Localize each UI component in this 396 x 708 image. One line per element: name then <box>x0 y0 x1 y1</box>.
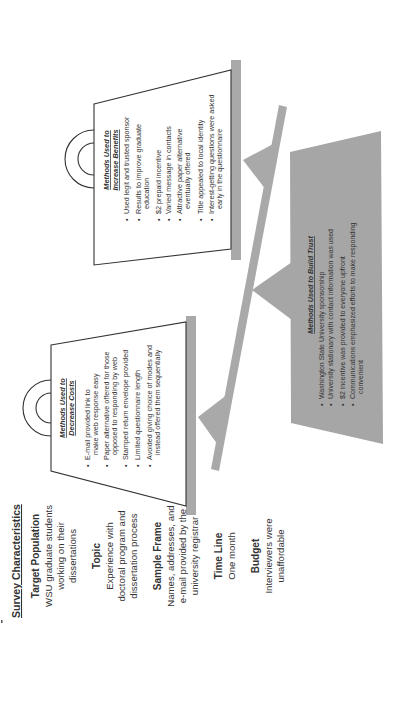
increase-benefits-platform <box>231 60 241 260</box>
topic-heading: Topic <box>91 543 102 569</box>
increase-benefits-title: Methods Used to <box>102 130 111 190</box>
sample-frame-line: e-mail provided by the <box>177 509 188 603</box>
decrease-costs-title: Decrease Costs <box>67 380 76 435</box>
build-trust-box <box>290 131 383 444</box>
increase-benefits-item: eventually offered <box>183 152 192 209</box>
build-trust-title: Methods Used to Build Trust <box>306 236 315 334</box>
increase-benefits-item: early in the questionnaire <box>215 129 224 209</box>
build-trust-item: University stationary with contact infor… <box>327 229 335 399</box>
increase-benefits-item: Title appealed to local identity <box>196 119 205 214</box>
increase-benefits-bag-handle <box>65 130 94 188</box>
time-line-line: One month <box>226 532 237 579</box>
increase-benefits-item: Varied message in contacts <box>164 126 173 214</box>
decrease-costs-item: Limited questionnaire length <box>133 370 142 460</box>
budget-line: Interviewers were <box>263 518 274 593</box>
stray-mark <box>1 620 3 623</box>
decrease-costs-bag-handle <box>23 380 51 436</box>
social-exchange-balance-diagram: Survey Characteristics Target Population… <box>0 0 396 708</box>
decrease-costs-platform <box>186 316 196 515</box>
increase-benefits-item: $2 prepaid incentive <box>154 150 163 214</box>
survey-characteristics-panel: Survey Characteristics Target Population… <box>10 504 286 618</box>
decrease-costs-item: make web response easy <box>91 373 100 455</box>
sample-frame-heading: Sample Frame <box>152 521 163 590</box>
increase-benefits-item: education <box>142 178 151 209</box>
topic-line: Experience with <box>104 522 115 590</box>
target-population-line: dissertations <box>67 529 78 583</box>
decrease-costs-item: opposed to responding by web <box>110 357 119 455</box>
build-trust-pointer <box>252 262 292 320</box>
build-trust-item: convenient <box>357 360 364 394</box>
decrease-costs-item: Stamped return envelope provided <box>121 350 130 460</box>
increase-benefits-title: Increase Benefits <box>111 129 120 190</box>
sample-frame-line: Names, addresses, and <box>165 505 176 606</box>
target-population-heading: Target Population <box>30 514 41 598</box>
time-line-heading: Time Line <box>213 532 224 579</box>
increase-benefits-item: Used legit and trusted sponsor <box>122 116 131 214</box>
topic-line: doctoral program and <box>116 510 127 601</box>
decrease-costs-item: instead offered them sequentially <box>153 349 162 455</box>
budget-heading: Budget <box>250 538 261 573</box>
sample-frame-line: university registrar <box>189 516 200 595</box>
survey-characteristics-title: Survey Characteristics <box>10 504 22 618</box>
target-population-line: WSU graduate students <box>43 505 54 607</box>
topic-line: dissertation process <box>128 513 139 599</box>
build-trust-item: Washington State University sponsorship <box>318 272 326 399</box>
decrease-costs-title: Methods Used to <box>58 378 67 438</box>
build-trust-item: Communications emphasized efforts to mak… <box>349 222 357 399</box>
build-trust-item: $2 incentive was provided to everyone up… <box>339 256 347 399</box>
target-population-line: working on their <box>55 521 66 591</box>
budget-line: unaffordable <box>275 529 286 582</box>
